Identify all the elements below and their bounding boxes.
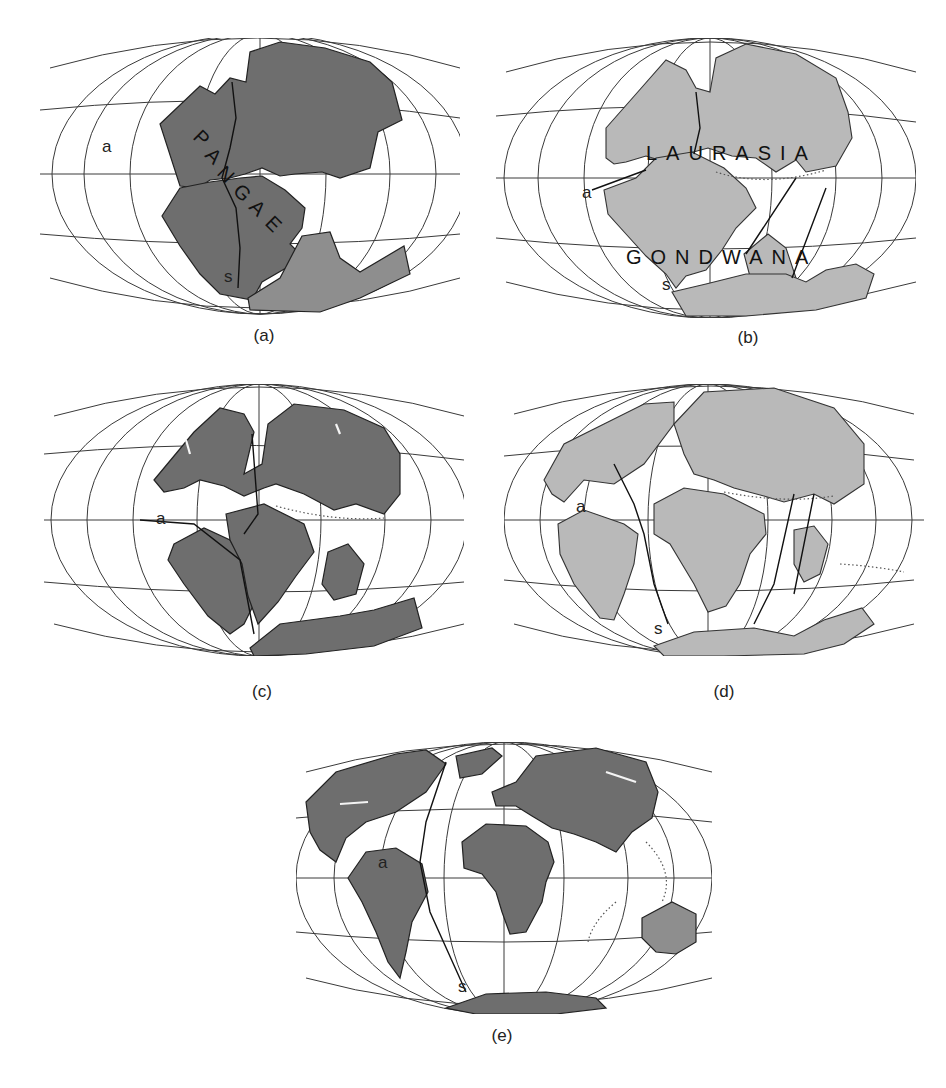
africa-landmass xyxy=(462,824,554,934)
map-panel-c: a (c) xyxy=(44,384,464,656)
point-label-a: a xyxy=(582,183,592,202)
north-america-landmass xyxy=(544,402,674,502)
laurasia-label: LAURASIA xyxy=(646,142,817,164)
india-landmass xyxy=(322,544,364,600)
panel-caption-c: (c) xyxy=(232,682,292,702)
point-label-a: a xyxy=(576,497,586,516)
eurasia-landmass xyxy=(674,388,864,504)
present-day-map: a s xyxy=(296,742,712,1014)
greenland-landmass xyxy=(456,748,502,778)
map-panel-d: a s (d) xyxy=(504,384,924,656)
panel-caption-d: (d) xyxy=(694,682,754,702)
landmass-north xyxy=(160,42,402,188)
point-label-a: a xyxy=(378,853,388,872)
antarctica-australia-landmass xyxy=(654,608,874,656)
point-label-a: a xyxy=(102,137,112,156)
india-landmass xyxy=(794,526,828,582)
africa-landmass xyxy=(654,488,766,612)
point-label-s: s xyxy=(224,267,233,286)
gondwana-label: GONDWANA xyxy=(626,246,817,268)
map-panel-a: a s P A N G A E (a) xyxy=(40,38,460,318)
australia-landmass xyxy=(642,902,696,954)
pangaea-map: a s P A N G A E xyxy=(40,38,460,318)
point-label-s: s xyxy=(458,977,467,996)
map-panel-b: a s LAURASIA GONDWANA (b) xyxy=(496,38,916,318)
north-america-eurasia-landmass xyxy=(154,404,400,514)
laurasia-gondwana-map: a s LAURASIA GONDWANA xyxy=(496,38,916,318)
jurassic-map: a xyxy=(44,384,464,656)
mid-atlantic-ridge xyxy=(420,762,466,992)
point-label-a: a xyxy=(156,509,166,528)
panel-caption-a: (a) xyxy=(234,326,294,346)
south-america-landmass xyxy=(558,510,638,620)
antarctica-landmass xyxy=(446,992,606,1014)
panel-caption-b: (b) xyxy=(718,328,778,348)
cretaceous-map: a s xyxy=(504,384,924,656)
antarctica-landmass xyxy=(250,598,422,656)
map-panel-e: a s (e) xyxy=(296,742,712,1014)
south-america-landmass xyxy=(348,848,428,978)
point-label-s: s xyxy=(654,619,663,638)
point-label-s: s xyxy=(662,275,671,294)
panel-caption-e: (e) xyxy=(472,1026,532,1046)
